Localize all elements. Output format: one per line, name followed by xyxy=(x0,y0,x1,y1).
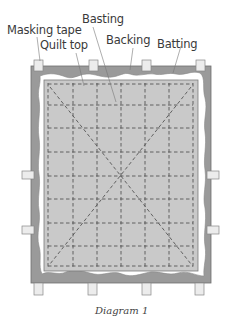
label-quilt-top: Quilt top xyxy=(40,40,88,52)
label-batting: Batting xyxy=(157,39,197,51)
label-basting: Basting xyxy=(82,14,124,26)
diagram-caption: Diagram 1 xyxy=(95,306,148,316)
label-masking-tape: Masking tape xyxy=(7,25,82,37)
label-backing: Backing xyxy=(106,35,150,47)
quilt-basting-diagram: Masking tape Quilt top Basting Backing B… xyxy=(0,0,231,327)
